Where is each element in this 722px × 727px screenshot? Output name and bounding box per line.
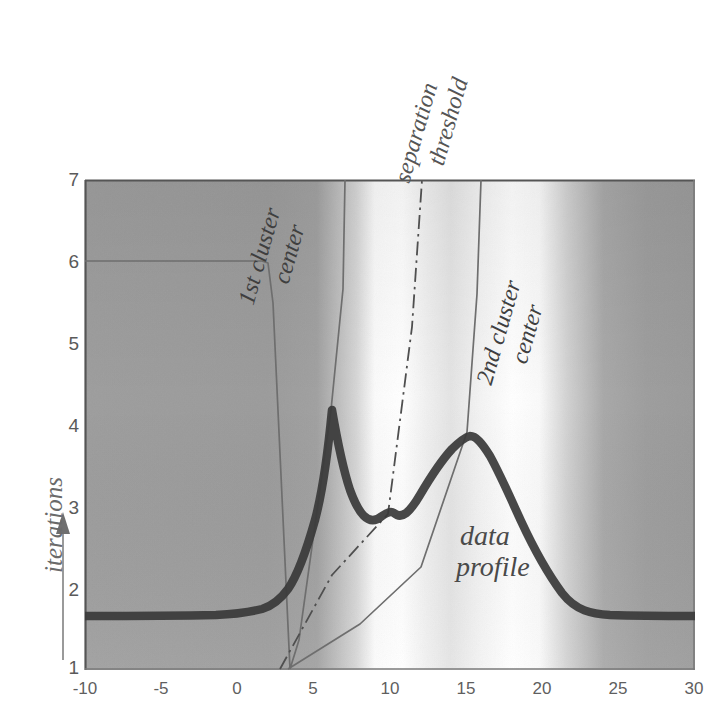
x-tick-0: 0	[214, 680, 260, 697]
x-tick-15: 15	[443, 680, 489, 697]
y-tick-3: 3	[45, 498, 79, 517]
x-tick-30: 30	[671, 680, 717, 697]
y-tick-5: 5	[45, 334, 79, 353]
x-tick-10: 10	[367, 680, 413, 697]
x-tick--5: -5	[138, 680, 184, 697]
y-tick-1: 1	[45, 658, 79, 677]
x-tick-20: 20	[519, 680, 565, 697]
x-tick-5: 5	[290, 680, 336, 697]
x-tick-25: 25	[595, 680, 641, 697]
y-tick-6: 6	[45, 252, 79, 271]
y-tick-7: 7	[45, 170, 79, 189]
x-tick--10: -10	[62, 680, 108, 697]
y-tick-2: 2	[45, 580, 79, 599]
figure-canvas: 7 6 5 4 3 2 1 -10 -5 0 5 10 15 20 25 30 …	[0, 0, 722, 727]
y-tick-4: 4	[45, 416, 79, 435]
chart-plot-area	[0, 0, 722, 727]
